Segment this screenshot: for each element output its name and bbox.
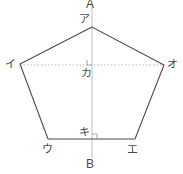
axis-label-a: A xyxy=(86,0,94,10)
interior-point-label-ki-kana: キ xyxy=(79,127,90,138)
right-angle-mark-at-ki-icon xyxy=(92,134,97,139)
diagram-canvas: A B ア イ ウ エ オ カ キ xyxy=(0,0,183,174)
interior-point-label-ka-kana: カ xyxy=(81,68,92,79)
vertex-label-i-kana: イ xyxy=(5,59,16,70)
vertex-label-e-kana: エ xyxy=(127,144,138,155)
vertex-label-u-kana: ウ xyxy=(42,144,53,155)
pentagon-figure-svg xyxy=(0,0,183,174)
axis-label-b: B xyxy=(86,158,94,170)
vertex-label-o-kana: オ xyxy=(167,59,178,70)
right-angle-mark-at-ka-icon xyxy=(87,60,92,65)
vertex-label-a-kana: ア xyxy=(79,14,90,25)
